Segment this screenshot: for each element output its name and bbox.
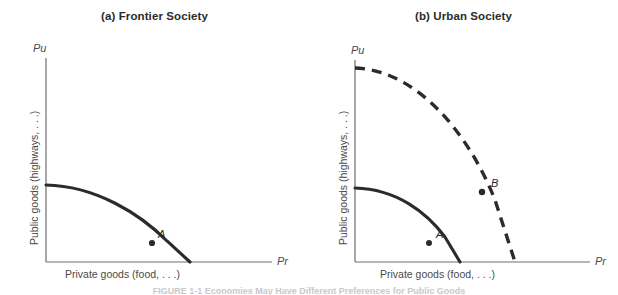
panel-a-x-axis-label: Private goods (food, . . .)	[65, 268, 180, 280]
panel-a-point-a-marker	[149, 240, 155, 246]
panel-b-point-label-b: B	[491, 177, 498, 189]
panel-frontier-society: (a) Frontier Society Pu Pr Public goods …	[0, 0, 309, 295]
panel-b-x-axis-symbol: Pr	[595, 255, 606, 267]
panel-a-point-label-a: A	[158, 228, 165, 240]
panel-b-ppf-curve-solid	[355, 188, 460, 262]
panel-b-point-b-marker	[479, 189, 485, 195]
panel-b-x-axis-label: Private goods (food, . . .)	[380, 268, 495, 280]
panel-urban-society: (b) Urban Society Pu Pr Public goods (hi…	[309, 0, 618, 295]
panel-b-y-axis-label: Public goods (highways, . . .)	[337, 111, 349, 245]
panel-a-x-axis-symbol: Pr	[277, 255, 288, 267]
panel-a-y-axis-symbol: Pu	[33, 42, 46, 54]
panel-b-point-a-marker	[426, 240, 432, 246]
figure-caption: FIGURE 1-1 Economies May Have Different …	[0, 286, 618, 295]
panel-a-ppf-curve-solid	[46, 185, 190, 262]
panel-b-ppf-curve-dashed	[355, 68, 515, 262]
panel-b-point-label-a: A	[436, 228, 443, 240]
figure-root: (a) Frontier Society Pu Pr Public goods …	[0, 0, 618, 295]
panel-b-y-axis-symbol: Pu	[351, 44, 364, 56]
panel-a-y-axis-label: Public goods (highways, . . .)	[28, 111, 40, 245]
